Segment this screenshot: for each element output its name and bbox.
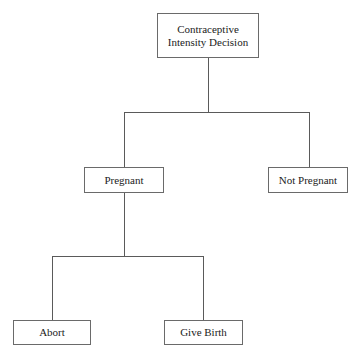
node-label-line1: Contraceptive bbox=[177, 23, 239, 36]
node-label: Abort bbox=[39, 326, 65, 339]
connector-to-pregnant bbox=[124, 112, 125, 167]
connector-to-not-pregnant bbox=[309, 112, 310, 167]
node-give-birth: Give Birth bbox=[164, 320, 243, 345]
node-label: Give Birth bbox=[180, 326, 227, 339]
node-not-pregnant: Not Pregnant bbox=[268, 167, 348, 193]
node-pregnant: Pregnant bbox=[84, 167, 164, 193]
node-label-line2: Intensity Decision bbox=[168, 36, 248, 49]
connector-to-give-birth bbox=[203, 256, 204, 320]
connector-to-abort bbox=[52, 256, 53, 320]
node-label: Not Pregnant bbox=[279, 174, 337, 187]
node-contraceptive-intensity-decision: Contraceptive Intensity Decision bbox=[157, 13, 259, 58]
connector-level1-horizontal bbox=[124, 112, 310, 113]
connector-pregnant-down bbox=[124, 193, 125, 256]
connector-level2-horizontal bbox=[52, 256, 204, 257]
node-label: Pregnant bbox=[104, 174, 143, 187]
connector-root-down bbox=[208, 58, 209, 112]
node-abort: Abort bbox=[13, 320, 91, 345]
